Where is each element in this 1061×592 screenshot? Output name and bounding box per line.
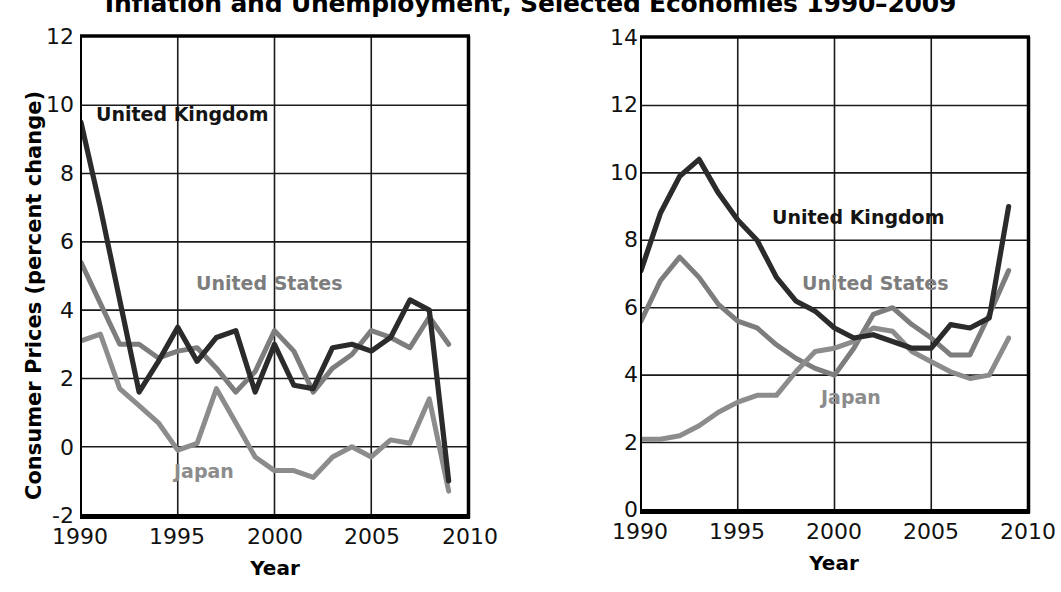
inflation-label-united-kingdom: United Kingdom (96, 103, 268, 125)
unemployment-x-axis-title: Year (754, 551, 914, 575)
inflation-panel: Consumer Prices (percent change) 12 10 8… (0, 0, 520, 592)
unemployment-label-united-kingdom: United Kingdom (772, 206, 944, 228)
figure-root: Inflation and Unemployment, Selected Eco… (0, 0, 1061, 592)
inflation-ytick-10: 10 (30, 92, 74, 117)
unemployment-xtick-2005: 2005 (891, 519, 971, 544)
unemployment-ytick-4: 4 (594, 362, 638, 387)
inflation-xtick-1995: 1995 (137, 524, 217, 549)
unemployment-label-japan: Japan (821, 386, 881, 408)
unemployment-xtick-1995: 1995 (697, 519, 777, 544)
unemployment-label-united-states: United States (802, 272, 949, 294)
unemployment-ytick-14: 14 (594, 25, 638, 50)
inflation-xtick-2010: 2010 (430, 524, 510, 549)
inflation-ytick-8: 8 (30, 161, 74, 186)
inflation-xtick-2005: 2005 (332, 524, 412, 549)
unemployment-xtick-1990: 1990 (600, 519, 680, 544)
inflation-xtick-2000: 2000 (235, 524, 315, 549)
unemployment-ytick-2: 2 (594, 430, 638, 455)
inflation-ytick-6: 6 (30, 229, 74, 254)
inflation-ytick-2: 2 (30, 366, 74, 391)
unemployment-xtick-2000: 2000 (794, 519, 874, 544)
unemployment-panel: Unemployment Rates* (in percent) 14 12 1… (540, 0, 1061, 592)
unemployment-ytick-12: 12 (594, 92, 638, 117)
unemployment-xtick-2010: 2010 (988, 519, 1061, 544)
unemployment-ytick-8: 8 (594, 227, 638, 252)
inflation-ytick-12: 12 (30, 24, 74, 49)
inflation-label-united-states: United States (196, 272, 343, 294)
inflation-label-japan: Japan (174, 460, 234, 482)
inflation-x-axis-title: Year (195, 556, 355, 580)
unemployment-ytick-10: 10 (594, 160, 638, 185)
inflation-ytick-4: 4 (30, 298, 74, 323)
unemployment-ytick-6: 6 (594, 295, 638, 320)
inflation-xtick-1990: 1990 (40, 524, 120, 549)
inflation-ytick-0: 0 (30, 435, 74, 460)
